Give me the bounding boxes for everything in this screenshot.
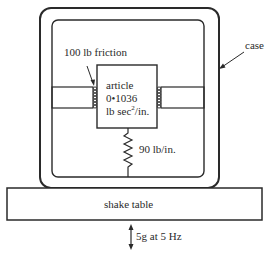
case-leader-arrow-icon xyxy=(219,52,244,69)
article-units-a: lb sec xyxy=(106,105,131,117)
excitation-double-arrow-icon xyxy=(129,224,134,250)
right-friction-block xyxy=(161,87,204,108)
shake-table-diagram: 100 lb friction case article 0•1036 lb s… xyxy=(0,0,269,256)
excitation-label: 5g at 5 Hz xyxy=(136,230,182,242)
article-units-b: /in. xyxy=(135,105,150,117)
article-label: article xyxy=(106,79,134,91)
spring-rate-label: 90 lb/in. xyxy=(139,143,176,155)
left-friction-block xyxy=(52,87,93,108)
left-friction-coil-icon xyxy=(93,87,96,108)
article-mass-units: lb sec2/in. xyxy=(106,104,149,117)
article-mass-value: 0•1036 xyxy=(106,92,138,104)
right-friction-coil-icon xyxy=(157,87,160,108)
spring-icon xyxy=(124,128,132,177)
friction-label: 100 lb friction xyxy=(64,46,127,58)
case-label: case xyxy=(245,39,264,51)
friction-leader-arrow-icon xyxy=(87,66,95,86)
shake-table-label: shake table xyxy=(104,198,153,210)
